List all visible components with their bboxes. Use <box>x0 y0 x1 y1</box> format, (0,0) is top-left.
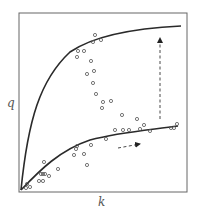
data-point <box>104 137 107 140</box>
x-axis-label: k <box>98 195 105 209</box>
y-axis-label: q <box>7 96 15 110</box>
data-point <box>72 153 75 156</box>
data-point <box>101 100 104 103</box>
data-point <box>89 59 92 62</box>
plot-frame <box>19 13 187 192</box>
data-point <box>85 163 88 166</box>
data-point <box>28 185 31 188</box>
data-point <box>76 49 79 52</box>
data-point <box>85 72 88 75</box>
data-point <box>37 179 40 182</box>
data-point <box>47 174 50 177</box>
data-point <box>121 128 124 131</box>
data-point <box>94 92 97 95</box>
data-point <box>89 143 92 146</box>
data-point <box>75 55 78 58</box>
diagram-figure <box>0 0 197 214</box>
data-point <box>127 128 130 131</box>
upper-curve <box>21 26 181 190</box>
data-point <box>82 152 85 155</box>
data-point <box>91 81 94 84</box>
data-point <box>42 160 45 163</box>
data-point <box>109 99 112 102</box>
data-point <box>41 179 44 182</box>
data-point <box>135 117 138 120</box>
horizontal-dashed-arrow <box>118 144 140 148</box>
data-point <box>175 122 178 125</box>
data-point <box>93 33 96 36</box>
scatter-points <box>24 33 178 189</box>
data-point <box>82 49 85 52</box>
data-point <box>99 38 102 41</box>
data-point <box>100 106 103 109</box>
data-point <box>92 69 95 72</box>
data-point <box>120 113 123 116</box>
data-point <box>113 128 116 131</box>
data-point <box>56 167 59 170</box>
data-point <box>24 186 27 189</box>
data-point <box>142 123 145 126</box>
